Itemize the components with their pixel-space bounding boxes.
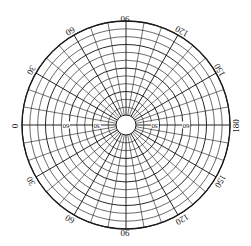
center-hub-circle — [116, 115, 136, 135]
radial-tick-label-left-30: 30 — [93, 122, 101, 129]
radial-tick-label-right-30: 30 — [151, 122, 159, 129]
polar-diagram-canvas: 0306090120150180150120906030 60303060 — [0, 0, 251, 246]
radial-tick-label-right-60: 60 — [182, 122, 190, 129]
radial-tick-label-left-60: 60 — [62, 122, 70, 129]
angular-tick-label-bottom-90: 90 — [121, 228, 130, 237]
polar-grid-svg — [0, 0, 251, 246]
angular-tick-label-top-90: 90 — [121, 14, 130, 23]
angular-tick-label-right-180: 180 — [232, 119, 241, 133]
angular-tick-label-left-0: 0 — [10, 124, 19, 129]
